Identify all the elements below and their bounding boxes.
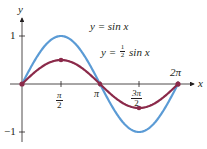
x-tick-two-pi: 2π (170, 66, 181, 78)
legend-sin-x: y = sin x (90, 20, 128, 32)
legend-half-fraction: 1 2 (120, 44, 126, 59)
x-tick-pi: π (94, 88, 99, 99)
x-axis-label: x (198, 77, 203, 89)
x-tick-three-pi-half: 3π 2 (131, 89, 142, 108)
legend-half-sin-x: y = 1 2 sin x (101, 44, 150, 59)
x-tick-pi-half: π 2 (56, 91, 63, 110)
y-tick-1: 1 (10, 29, 16, 41)
legend-half-den: 2 (121, 52, 125, 59)
x-tick-three-pi-half-den: 2 (134, 99, 139, 108)
y-axis-label: y (18, 3, 23, 15)
x-tick-pi-half-den: 2 (57, 101, 62, 110)
legend-half-prefix: y = (101, 46, 119, 58)
legend-half-suffix: sin x (126, 46, 149, 58)
y-tick-neg-1: −1 (4, 125, 16, 137)
